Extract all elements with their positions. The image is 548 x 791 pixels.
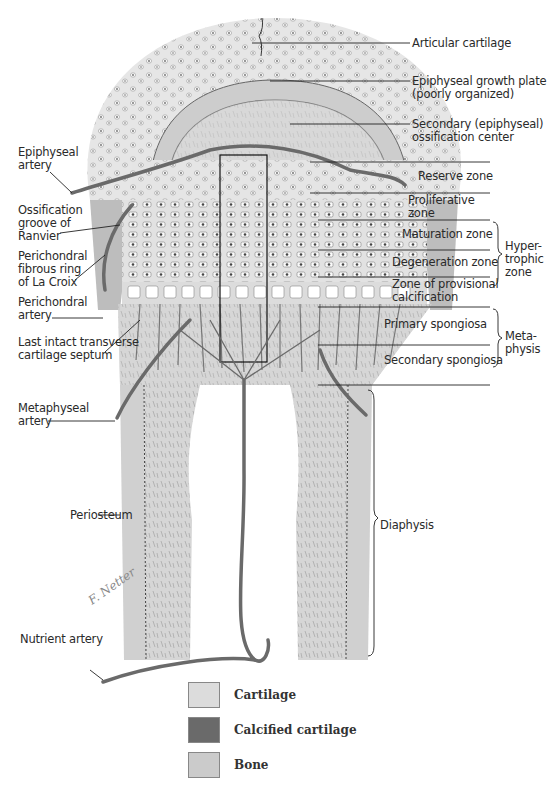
label-ossification-groove: Ossification groove of Ranvier [18,204,82,243]
label-hypertrophic-zone: Hyper- trophic zone [505,240,544,279]
label-reserve-zone: Reserve zone [418,170,493,183]
label-epiphyseal-growth-plate: Epiphyseal growth plate (poorly organize… [412,75,546,101]
legend-item-calcified-cartilage: Calcified cartilage [188,717,357,743]
label-degeneration-zone: Degeneration zone [392,256,498,269]
legend-label-bone: Bone [234,758,269,772]
label-perichondral-ring: Perichondral fibrous ring of La Croix [18,250,87,289]
label-periosteum: Periosteum [70,509,133,522]
label-maturation-zone: Maturation zone [402,228,493,241]
label-proliferative-zone: Proliferative zone [408,194,475,220]
legend-label-cartilage: Cartilage [234,688,296,702]
label-perichondral-artery: Perichondral artery [18,296,87,322]
proliferative-maturation-zone [122,200,427,288]
swatch-cartilage [188,682,220,708]
label-diaphysis: Diaphysis [380,519,434,532]
swatch-bone [188,752,220,778]
label-metaphysis: Meta- physis [505,330,540,356]
label-provisional-calcification: Zone of provisional calcification [392,278,498,304]
legend-item-cartilage: Cartilage [188,682,296,708]
label-last-septum: Last intact transverse cartilage septum [18,336,139,362]
label-metaphyseal-artery: Metaphyseal artery [18,402,89,428]
legend-label-calcified-cartilage: Calcified cartilage [234,723,357,737]
growth-plate-diagram: F. Netter Articular cartilage Epiphyseal… [0,0,548,791]
label-primary-spongiosa: Primary spongiosa [384,318,487,331]
label-articular-cartilage: Articular cartilage [412,37,511,50]
label-secondary-ossification-center: Secondary (epiphyseal) ossification cent… [412,118,543,144]
swatch-calcified-cartilage [188,717,220,743]
label-nutrient-artery: Nutrient artery [20,633,103,646]
label-epiphyseal-artery: Epiphyseal artery [18,146,78,172]
label-secondary-spongiosa: Secondary spongiosa [384,354,503,367]
legend-item-bone: Bone [188,752,269,778]
